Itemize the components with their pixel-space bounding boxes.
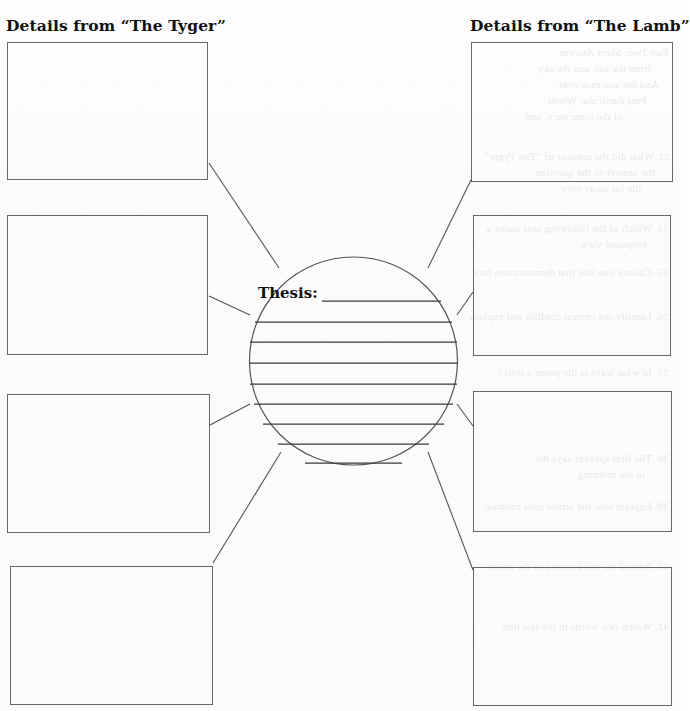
thesis-label: Thesis: [258,284,318,302]
detail-box-left-3[interactable] [7,394,210,533]
detail-box-right-1[interactable] [471,42,673,182]
detail-box-left-4[interactable] [10,566,213,705]
detail-box-left-2[interactable] [7,215,208,355]
detail-box-right-4[interactable] [473,567,672,706]
heading-details-from-the-tyger: Details from “The Tyger” [6,16,226,35]
detail-box-right-2[interactable] [473,215,671,356]
detail-box-left-1[interactable] [7,42,208,180]
detail-box-right-3[interactable] [473,391,672,532]
heading-details-from-the-lamb: Details from “The Lamb” [470,16,690,35]
